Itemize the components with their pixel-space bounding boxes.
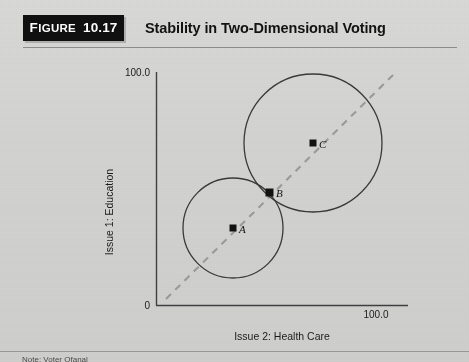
figure-page: FIGURE 10.17 Stability in Two-Dimensiona… [0,0,469,362]
y-axis-max-label: 100.0 [125,67,150,78]
point-label-c: C [319,138,327,150]
point-label-b: B [276,187,283,199]
figure-badge: FIGURE 10.17 [23,15,124,41]
figure-badge-word-rest: IGURE [38,22,76,34]
point-marker-b [266,189,274,197]
figure-badge-word-initial: F [30,20,39,35]
footer-note: Note: Voter Ofanal [22,354,452,362]
figure-badge-word: FIGURE [30,21,76,35]
x-axis-max-label: 100.0 [363,309,388,320]
x-axis-title: Issue 2: Health Care [234,330,330,342]
chart-area: 100.0 0 100.0 Issue 1: Education Issue 2… [0,52,469,342]
point-label-a: A [238,223,246,235]
y-axis-min-label: 0 [144,300,150,311]
figure-title: Stability in Two-Dimensional Voting [145,20,386,36]
header-divider [23,47,457,48]
point-marker-a [230,225,237,232]
footer-divider [0,351,469,352]
figure-badge-number: 10.17 [83,21,117,35]
point-marker-c [310,140,317,147]
y-axis-title: Issue 1: Education [103,169,115,256]
contract-curve-dashed-line [166,72,396,299]
